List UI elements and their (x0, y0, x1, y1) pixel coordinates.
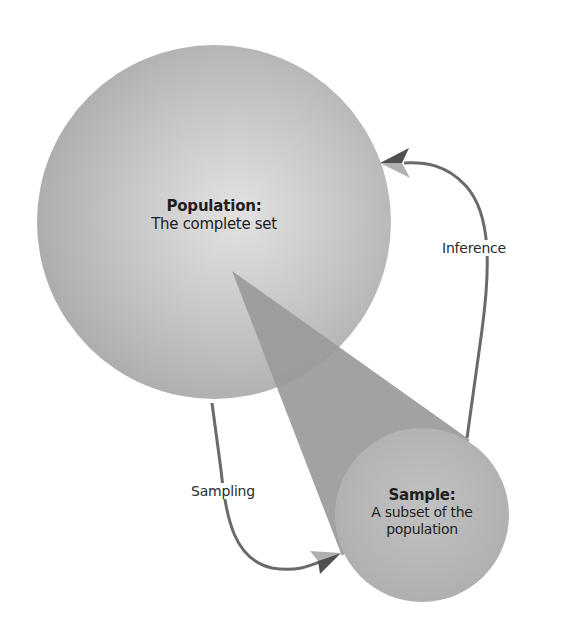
sampling-diagram (0, 0, 561, 641)
sample-description-line-2: population (340, 521, 504, 538)
sample-title: Sample: (340, 486, 504, 504)
sample-label: Sample: A subset of the population (340, 486, 504, 538)
population-description: The complete set (114, 215, 314, 233)
population-label: Population: The complete set (114, 197, 314, 234)
population-title: Population: (114, 197, 314, 215)
inference-arrow-line (404, 163, 487, 438)
sample-description-line-1: A subset of the (340, 504, 504, 521)
inference-label: Inference (440, 240, 508, 256)
sampling-label: Sampling (189, 483, 257, 499)
